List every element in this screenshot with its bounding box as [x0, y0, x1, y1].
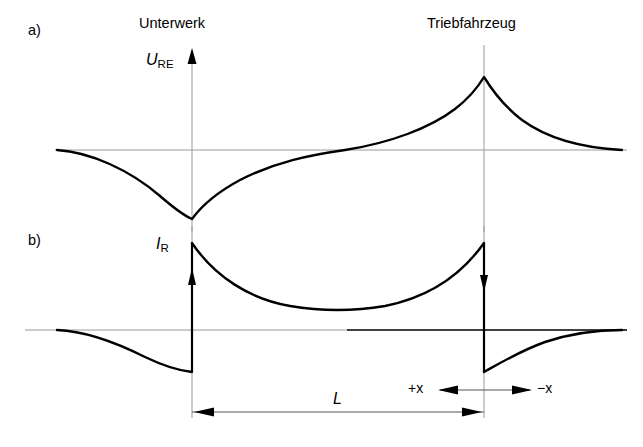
panel-b-label: b)	[28, 233, 41, 248]
current-curve-left	[57, 330, 192, 372]
substation-label: Unterwerk	[139, 16, 205, 31]
negative-x-label: −x	[537, 381, 552, 395]
vehicle-label: Triebfahrzeug	[427, 16, 516, 31]
current-jump-down-arrow-icon	[480, 275, 488, 292]
length-label: L	[333, 391, 342, 407]
railway-potential-figure: a) b) Unterwerk Triebfahrzeug URE IR L +…	[0, 0, 643, 447]
length-arrow-left-icon	[194, 408, 214, 417]
voltage-axis-label: URE	[146, 52, 174, 70]
voltage-subscript: RE	[158, 58, 174, 70]
positive-x-arrow-icon	[438, 386, 458, 395]
current-jump-up-arrow-icon	[188, 268, 196, 285]
voltage-curve	[57, 77, 622, 219]
current-subscript: R	[160, 242, 169, 254]
voltage-axis-arrow-icon	[188, 48, 197, 64]
length-arrow-right-icon	[462, 408, 482, 417]
negative-x-arrow-icon	[512, 386, 532, 395]
current-curve-middle	[192, 243, 484, 310]
positive-x-label: +x	[408, 381, 423, 395]
current-curve-right	[484, 330, 622, 372]
current-axis-label: IR	[156, 236, 169, 254]
voltage-symbol: U	[146, 51, 158, 68]
panel-a-label: a)	[28, 23, 41, 38]
